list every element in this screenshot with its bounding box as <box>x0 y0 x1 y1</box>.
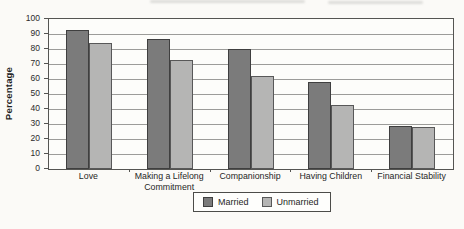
plot-area <box>48 18 454 170</box>
bar-unmarried-2 <box>170 60 193 170</box>
bar-married-2 <box>147 39 170 170</box>
y-tick-label: 90 <box>10 28 40 38</box>
x-axis-boundary-ticks <box>48 169 452 173</box>
bar-married-4 <box>308 82 331 169</box>
y-tick-label: 40 <box>10 103 40 113</box>
y-tick-label: 0 <box>10 163 40 173</box>
x-axis-tick-mark <box>290 169 291 172</box>
legend-item-unmarried: Unmarried <box>262 197 319 207</box>
bar-unmarried-1 <box>89 43 112 169</box>
legend-label-unmarried: Unmarried <box>277 197 319 207</box>
y-tick-label: 50 <box>10 88 40 98</box>
x-axis-tick-mark <box>210 169 211 172</box>
x-axis-tick-mark <box>371 169 372 172</box>
x-axis-tick-mark <box>129 169 130 172</box>
legend-item-married: Married <box>203 197 249 207</box>
y-tick-label: 10 <box>10 148 40 158</box>
legend-swatch-married <box>203 197 213 207</box>
y-axis-ticks: 0102030405060708090100 <box>0 18 48 168</box>
legend-swatch-unmarried <box>262 197 272 207</box>
bar-married-5 <box>389 126 412 170</box>
bar-married-1 <box>66 30 89 170</box>
bar-unmarried-4 <box>331 105 354 170</box>
bar-married-3 <box>228 49 251 169</box>
bar-unmarried-5 <box>412 127 435 169</box>
y-tick-label: 60 <box>10 73 40 83</box>
y-tick-label: 20 <box>10 133 40 143</box>
y-tick-label: 100 <box>10 13 40 23</box>
legend: MarriedUnmarried <box>193 192 331 212</box>
y-tick-label: 80 <box>10 43 40 53</box>
legend-label-married: Married <box>218 197 249 207</box>
y-tick-label: 70 <box>10 58 40 68</box>
bar-unmarried-3 <box>251 76 274 169</box>
cut-off-title-remnant <box>328 1 423 4</box>
y-tick-label: 30 <box>10 118 40 128</box>
cut-off-title-remnant <box>150 0 305 3</box>
gridline <box>49 34 453 35</box>
scanned-chart-page: Percentage 0102030405060708090100 LoveMa… <box>0 0 464 229</box>
